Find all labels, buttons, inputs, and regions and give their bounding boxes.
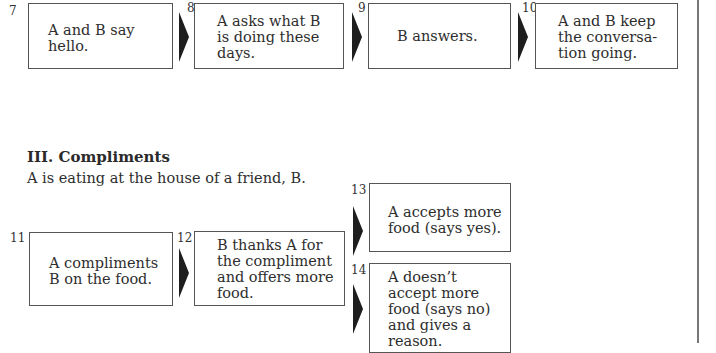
step-text: A accepts more food (says yes).	[388, 204, 508, 236]
step-text: A asks what B is doing these days.	[217, 13, 332, 61]
step-box-7: A and B say hello.	[28, 3, 173, 69]
step-number-13: 13	[351, 184, 366, 196]
step-text: A compliments B on the food.	[49, 255, 164, 287]
step-text: A and B say hello.	[48, 22, 158, 54]
section-intro: A is eating at the house of a friend, B.	[27, 170, 306, 186]
step-number-12: 12	[177, 232, 192, 244]
step-box-8: A asks what B is doing these days.	[194, 3, 344, 69]
step-text: B thanks A for the compliment and offers…	[217, 237, 337, 301]
arrow-right-icon	[179, 12, 189, 62]
step-box-10: A and B keep the conversa- tion going.	[535, 3, 678, 69]
arrow-right-icon	[353, 284, 363, 334]
page-margin-rule	[697, 0, 699, 343]
arrow-right-icon	[353, 206, 363, 256]
step-text: A and B keep the conversa- tion going.	[558, 13, 673, 61]
step-number-14: 14	[351, 264, 366, 276]
step-box-12: B thanks A for the compliment and offers…	[194, 231, 345, 306]
step-box-11: A compliments B on the food.	[29, 232, 173, 306]
step-box-9: B answers.	[368, 3, 511, 69]
step-text: B answers.	[397, 28, 507, 44]
section-heading: III. Compliments	[27, 148, 170, 166]
arrow-right-icon	[179, 248, 189, 298]
arrow-right-icon	[352, 12, 362, 62]
step-number-9: 9	[358, 2, 366, 14]
step-number-7: 7	[9, 5, 17, 17]
step-box-14: A doesn’t accept more food (says no) and…	[369, 263, 511, 353]
step-number-11: 11	[10, 232, 25, 244]
step-text: A doesn’t accept more food (says no) and…	[388, 269, 503, 349]
step-box-13: A accepts more food (says yes).	[369, 183, 511, 252]
arrow-right-icon	[518, 12, 528, 62]
